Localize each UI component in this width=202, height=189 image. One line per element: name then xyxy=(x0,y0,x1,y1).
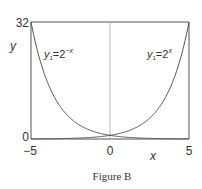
curve-label-pos: y1=2x xyxy=(146,47,172,61)
curve-label-neg: y1=2−x xyxy=(43,47,73,61)
y-axis-label: y xyxy=(9,39,17,53)
y-tick-0: 0 xyxy=(22,130,29,144)
x-tick-neg5: −5 xyxy=(23,144,37,158)
exponential-chart: 32 0 −5 0 5 x y y1=2−x y1=2x Figure B xyxy=(0,0,202,189)
x-tick-0: 0 xyxy=(107,144,114,158)
x-axis-label: x xyxy=(149,149,157,163)
figure-caption: Figure B xyxy=(93,170,132,182)
y-tick-32: 32 xyxy=(16,16,30,30)
x-tick-5: 5 xyxy=(186,144,193,158)
